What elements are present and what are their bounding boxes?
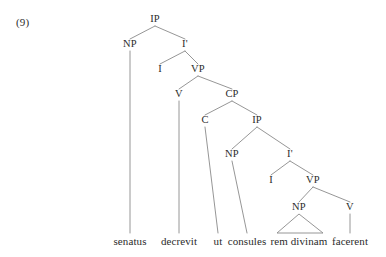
tree-node-ip: IP: [150, 13, 160, 24]
terminal-word: facerent: [332, 235, 368, 247]
tree-node-labels-group: IPNPI'IVPVCPCIPNPI'IVPNPV: [123, 13, 354, 212]
terminal-word: senatus: [113, 235, 146, 247]
tree-node-i: I: [269, 174, 273, 185]
tree-node-np: NP: [292, 201, 306, 212]
tree-node-ibar: I': [287, 148, 293, 159]
tree-node-ip: IP: [252, 114, 262, 125]
tree-branch: [155, 26, 185, 39]
tree-branch: [205, 101, 232, 115]
terminal-word: decrevit: [161, 235, 197, 247]
tree-branch: [257, 127, 290, 149]
tree-branch: [299, 187, 313, 202]
tree-node-cp: CP: [225, 88, 238, 99]
syntax-tree-figure: (9) IPNPI'IVPVCPCIPNPI'IVPNPV senatusdec…: [0, 0, 386, 257]
tree-branch: [232, 127, 257, 149]
tree-node-vp: VP: [191, 63, 205, 74]
tree-branch: [271, 161, 290, 175]
terminal-words-group: senatusdecrevitutconsulesrem divinamface…: [113, 235, 368, 247]
tree-node-c: C: [201, 114, 208, 125]
tree-node-vp: VP: [306, 174, 320, 185]
tree-node-v: V: [175, 88, 183, 99]
syntax-tree-svg: IPNPI'IVPVCPCIPNPI'IVPNPV senatusdecrevi…: [0, 0, 386, 257]
tree-branch: [232, 101, 257, 115]
tree-node-v: V: [346, 201, 354, 212]
tree-node-i: I: [158, 63, 162, 74]
tree-branch: [290, 161, 313, 175]
tree-node-ibar: I': [182, 38, 188, 49]
terminal-stem: [205, 127, 218, 233]
tree-branch: [160, 51, 185, 64]
tree-node-np: NP: [123, 38, 137, 49]
example-number: (9): [16, 16, 29, 28]
terminal-word: consules: [228, 235, 267, 247]
terminal-word: rem divinam: [270, 235, 327, 247]
terminal-triangle: [277, 214, 323, 233]
tree-node-np: NP: [225, 148, 239, 159]
terminal-word: ut: [214, 235, 223, 247]
terminal-stem: [232, 161, 247, 233]
tree-branch: [313, 187, 350, 202]
